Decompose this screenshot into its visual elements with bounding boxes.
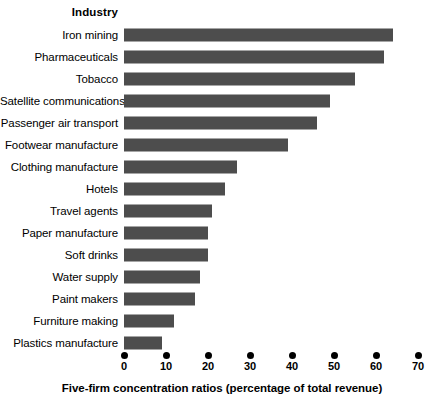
category-label: Paint makers: [0, 293, 118, 306]
chart-row: Paper manufacture: [0, 222, 444, 244]
chart-row: Paint makers: [0, 288, 444, 310]
bar: [124, 161, 237, 174]
tick-dot-icon: [415, 352, 422, 359]
tick-dot-icon: [121, 352, 128, 359]
chart-row: Satellite communications: [0, 90, 444, 112]
bar: [124, 51, 384, 64]
bar: [124, 139, 288, 152]
tick-label: 30: [230, 360, 270, 372]
bar: [124, 227, 208, 240]
bar: [124, 117, 317, 130]
chart-row: Footwear manufacture: [0, 134, 444, 156]
category-label: Water supply: [0, 271, 118, 284]
category-label: Soft drinks: [0, 249, 118, 262]
bar: [124, 293, 195, 306]
x-axis-title: Five-firm concentration ratios (percenta…: [0, 382, 444, 394]
chart-row: Pharmaceuticals: [0, 46, 444, 68]
category-label: Travel agents: [0, 205, 118, 218]
tick-label: 0: [104, 360, 144, 372]
chart-row: Travel agents: [0, 200, 444, 222]
tick-label: 70: [398, 360, 438, 372]
chart-row: Plastics manufacture: [0, 332, 444, 354]
tick-dot-icon: [331, 352, 338, 359]
category-label: Plastics manufacture: [0, 337, 118, 350]
category-label: Iron mining: [0, 29, 118, 42]
category-label: Footwear manufacture: [0, 139, 118, 152]
chart-row: Clothing manufacture: [0, 156, 444, 178]
category-label: Paper manufacture: [0, 227, 118, 240]
bar: [124, 337, 162, 350]
tick-label: 10: [146, 360, 186, 372]
bar: [124, 249, 208, 262]
chart-row: Furniture making: [0, 310, 444, 332]
tick-dot-icon: [205, 352, 212, 359]
chart-row: Hotels: [0, 178, 444, 200]
category-label: Furniture making: [0, 315, 118, 328]
tick-label: 50: [314, 360, 354, 372]
bar: [124, 183, 225, 196]
bar: [124, 315, 174, 328]
chart-row: Iron mining: [0, 24, 444, 46]
bar: [124, 29, 393, 42]
industry-column-header: Industry: [0, 6, 118, 18]
tick-dot-icon: [289, 352, 296, 359]
bar: [124, 73, 355, 86]
chart-row: Passenger air transport: [0, 112, 444, 134]
bar: [124, 271, 200, 284]
category-label: Passenger air transport: [0, 117, 118, 130]
bar-chart: Industry Iron miningPharmaceuticalsTobac…: [0, 0, 444, 404]
chart-row: Tobacco: [0, 68, 444, 90]
category-label: Clothing manufacture: [0, 161, 118, 174]
plot-area: Iron miningPharmaceuticalsTobaccoSatelli…: [0, 24, 444, 354]
bar: [124, 95, 330, 108]
bar: [124, 205, 212, 218]
tick-dot-icon: [247, 352, 254, 359]
category-label: Hotels: [0, 183, 118, 196]
tick-label: 20: [188, 360, 228, 372]
category-label: Satellite communications: [0, 95, 118, 108]
category-label: Tobacco: [0, 73, 118, 86]
chart-row: Water supply: [0, 266, 444, 288]
tick-dot-icon: [163, 352, 170, 359]
tick-label: 40: [272, 360, 312, 372]
tick-dot-icon: [373, 352, 380, 359]
x-axis: 010203040506070: [0, 352, 444, 382]
category-label: Pharmaceuticals: [0, 51, 118, 64]
tick-label: 60: [356, 360, 396, 372]
chart-row: Soft drinks: [0, 244, 444, 266]
